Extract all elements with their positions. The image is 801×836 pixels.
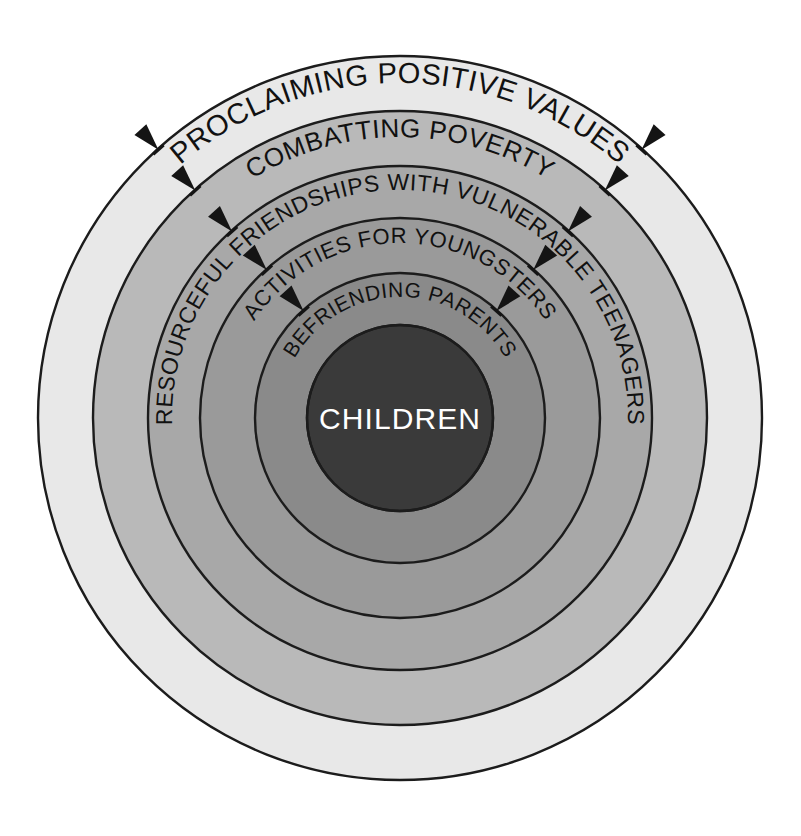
center-label: CHILDREN [319, 402, 481, 435]
diagram-root: PROCLAIMING POSITIVE VALUESCOMBATTING PO… [0, 0, 801, 836]
concentric-rings-diagram: PROCLAIMING POSITIVE VALUESCOMBATTING PO… [0, 0, 801, 836]
